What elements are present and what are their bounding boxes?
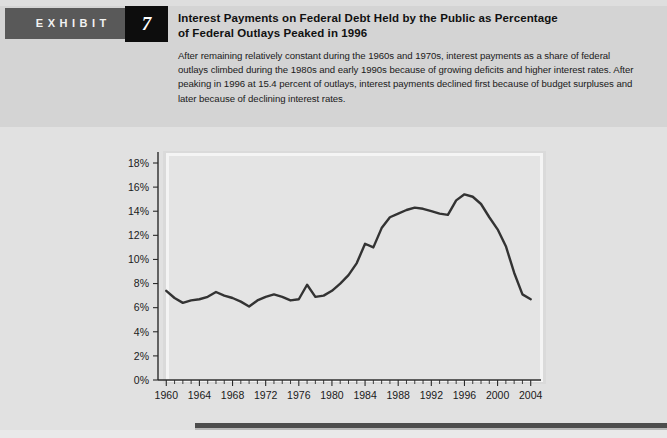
x-axis-tick-label: 1968 [221,389,245,401]
y-axis-tick-label: 4% [134,326,149,338]
page-title-line-2: of Federal Outlays Peaked in 1996 [178,27,367,39]
y-axis-tick-label: 12% [128,229,149,241]
y-axis-tick-label: 14% [128,205,149,217]
exhibit-number: 7 [125,6,168,42]
x-axis-tick-label: 1960 [155,389,179,401]
x-axis-tick-label: 1972 [254,389,278,401]
y-axis-tick-label: 2% [134,350,149,362]
exhibit-number-box: 7 [125,6,168,42]
header-top-edge [0,0,667,6]
exhibit-banner-bar: EXHIBIT [5,8,137,39]
x-axis-tick-label: 1980 [320,389,344,401]
y-axis-tick-label: 0% [134,374,149,386]
line-chart: 0%2%4%6%8%10%12%14%16%18%196019641968197… [158,163,558,423]
page-title: Interest Payments on Federal Debt Held b… [178,11,638,41]
chart-series-line [166,194,530,306]
plot-area: 0%2%4%6%8%10%12%14%16%18%196019641968197… [158,163,539,380]
x-axis-tick-label: 1988 [387,389,411,401]
x-axis-tick-label: 1992 [420,389,444,401]
x-axis-tick-label: 1976 [287,389,311,401]
page-bottom-strip [0,430,667,438]
x-axis-tick-label: 2004 [519,389,543,401]
y-axis-tick-label: 6% [134,301,149,313]
x-axis-tick-label: 1984 [353,389,377,401]
x-axis-tick-label: 1964 [188,389,212,401]
y-axis-tick-label: 18% [128,157,149,169]
y-axis-tick-label: 10% [128,253,149,265]
exhibit-page: EXHIBIT 7 Interest Payments on Federal D… [0,0,667,438]
page-title-line-1: Interest Payments on Federal Debt Held b… [178,12,558,24]
title-block: Interest Payments on Federal Debt Held b… [178,11,638,106]
exhibit-label: EXHIBIT [5,8,137,39]
y-axis-tick-label: 16% [128,181,149,193]
x-axis-tick-label: 1996 [453,389,477,401]
x-axis-tick-label: 2000 [486,389,510,401]
exhibit-description: After remaining relatively constant duri… [178,49,636,106]
y-axis-tick-label: 8% [134,277,149,289]
chart-container: 0%2%4%6%8%10%12%14%16%18%196019641968197… [0,127,667,438]
